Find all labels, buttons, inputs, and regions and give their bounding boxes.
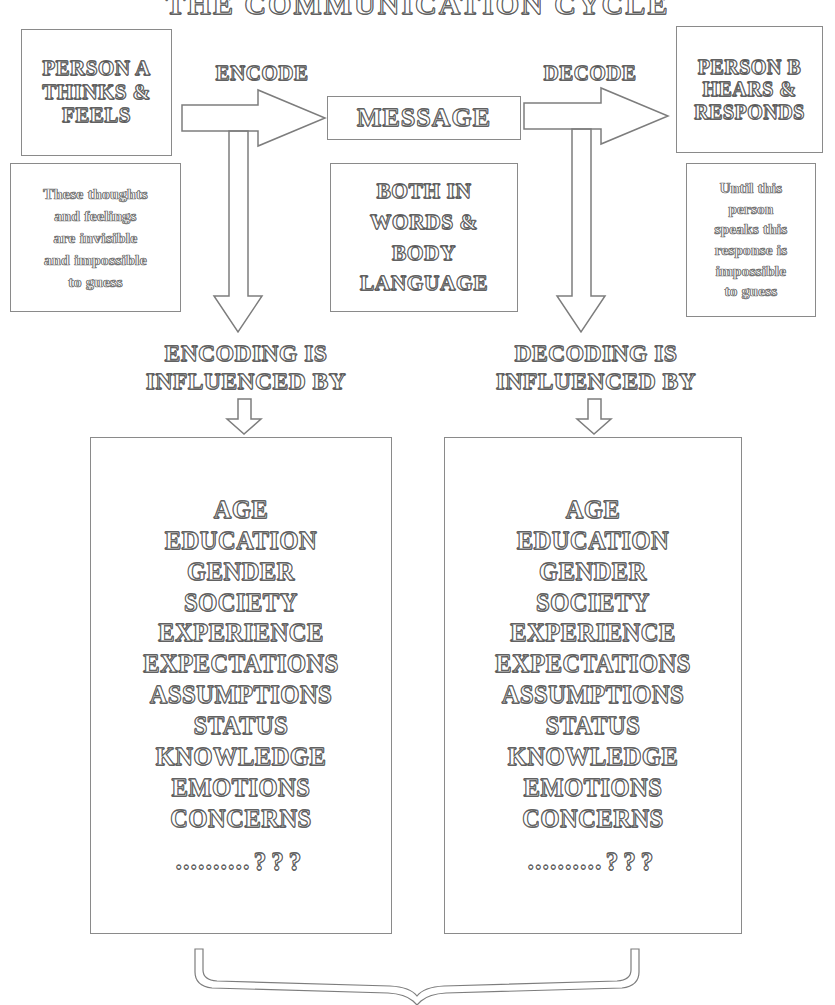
factor-question-marks: ??? (254, 848, 307, 876)
decoding-influenced-label: DECODING IS INFLUENCED BY (496, 339, 696, 395)
factor-item: EXPERIENCE (91, 618, 391, 649)
encode-down-arrow (214, 131, 262, 332)
factor-item: CONCERNS (445, 804, 741, 835)
factor-item: EMOTIONS (91, 773, 391, 804)
factor-ellipsis: .......... (176, 848, 251, 875)
thoughts-note-label: These thoughts and feelings are invisibl… (43, 183, 148, 293)
factor-item: EMOTIONS (445, 773, 741, 804)
message-note-box: BOTH IN WORDS & BODY LANGUAGE (330, 163, 518, 312)
factor-tail: ..........??? (91, 848, 391, 876)
person-b-label: PERSON B HEARS & RESPONDS (694, 56, 805, 123)
person-a-box: PERSON A THINKS & FEELS (21, 29, 172, 156)
encoding-influenced-label: ENCODING IS INFLUENCED BY (146, 339, 346, 395)
factor-item: STATUS (445, 711, 741, 742)
thoughts-note-box: These thoughts and feelings are invisibl… (10, 163, 181, 312)
bottom-brace (195, 949, 639, 1005)
decode-arrow (524, 88, 668, 144)
decode-label: DECODE (544, 62, 637, 86)
decoding-factors-box: AGEEDUCATIONGENDERSOCIETYEXPERIENCEEXPEC… (444, 437, 742, 934)
decoding-factors-arrow (577, 399, 611, 434)
factor-item: GENDER (91, 557, 391, 588)
factor-item: ASSUMPTIONS (445, 680, 741, 711)
encoding-factors-arrow (227, 399, 261, 434)
factor-ellipsis: .......... (528, 848, 603, 875)
message-note-label: BOTH IN WORDS & BODY LANGUAGE (360, 176, 488, 298)
decode-label-wrap: DECODE (524, 60, 656, 88)
factor-item: AGE (91, 495, 391, 526)
encoding-influenced-wrap: ENCODING IS INFLUENCED BY (96, 338, 396, 396)
encode-label: ENCODE (216, 62, 309, 86)
factor-item: KNOWLEDGE (91, 742, 391, 773)
factor-item: EDUCATION (445, 526, 741, 557)
response-note-label: Until this person speaks this response i… (715, 178, 788, 302)
page-title: THE COMMUNICATION CYCLE (0, 0, 835, 21)
factor-item: EXPECTATIONS (91, 649, 391, 680)
factor-item: KNOWLEDGE (445, 742, 741, 773)
message-label: MESSAGE (357, 103, 491, 132)
factor-item: SOCIETY (445, 588, 741, 619)
factor-item: EDUCATION (91, 526, 391, 557)
communication-cycle-diagram: THE COMMUNICATION CYCLE PERSON A THINKS … (0, 0, 835, 1005)
factor-item: GENDER (445, 557, 741, 588)
encode-label-wrap: ENCODE (196, 60, 328, 88)
factor-item: SOCIETY (91, 588, 391, 619)
message-box: MESSAGE (327, 96, 521, 140)
decoding-influenced-wrap: DECODING IS INFLUENCED BY (446, 338, 746, 396)
factor-item: CONCERNS (91, 804, 391, 835)
factor-question-marks: ??? (606, 848, 659, 876)
factor-tail: ..........??? (445, 848, 741, 876)
encoding-factors-box: AGEEDUCATIONGENDERSOCIETYEXPERIENCEEXPEC… (90, 437, 392, 934)
factor-item: EXPECTATIONS (445, 649, 741, 680)
encoding-factors-list: AGEEDUCATIONGENDERSOCIETYEXPERIENCEEXPEC… (91, 495, 391, 876)
factor-item: ASSUMPTIONS (91, 680, 391, 711)
response-note-box: Until this person speaks this response i… (686, 163, 816, 317)
person-a-label: PERSON A THINKS & FEELS (42, 57, 150, 128)
factor-item: EXPERIENCE (445, 618, 741, 649)
decoding-factors-list: AGEEDUCATIONGENDERSOCIETYEXPERIENCEEXPEC… (445, 495, 741, 876)
factor-item: AGE (445, 495, 741, 526)
decode-down-arrow (557, 129, 605, 332)
person-b-box: PERSON B HEARS & RESPONDS (676, 26, 823, 153)
factor-item: STATUS (91, 711, 391, 742)
encode-arrow (182, 90, 325, 146)
